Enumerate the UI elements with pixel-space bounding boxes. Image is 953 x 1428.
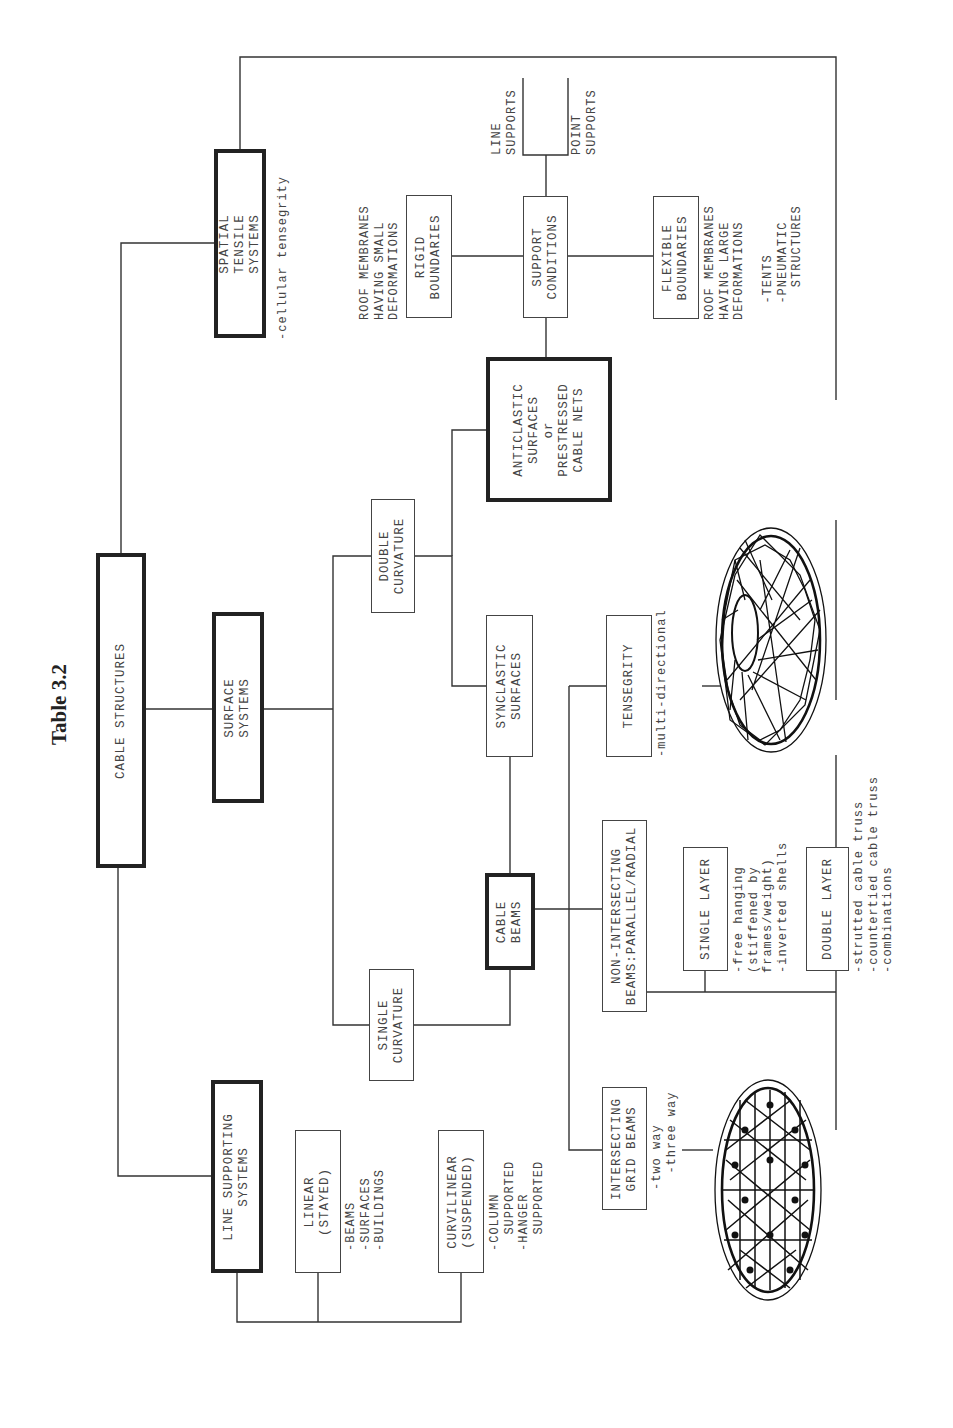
node-label: NON-INTERSECTING BEAMS:PARALLEL/RADIAL [610,827,640,1006]
node-label: INTERSECTING GRID BEAMS [610,1097,640,1199]
note-roof-membranes-small: ROOF MEMBRANES HAVING SMALL DEFORMATIONS [358,205,402,320]
node-cable-structures: CABLE STRUCTURES [96,553,146,868]
node-label: TENSEGRITY [622,643,637,728]
node-anticlastic-surfaces: ANTICLASTIC SURFACES or PRESTRESSED CABL… [486,357,612,502]
node-synclastic-surfaces: SYNCLASTIC SURFACES [486,615,533,757]
node-label: LINEAR (STAYED) [303,1167,333,1235]
node-label: ANTICLASTIC SURFACES or PRESTRESSED CABL… [512,383,587,477]
grid-net-icon [715,1080,821,1300]
node-label: SINGLE CURVATURE [377,987,407,1064]
note-curvilinear-examples: -COLUMN SUPPORTED -HANGER SUPPORTED [488,1161,546,1251]
note-linear-examples: -BEAMS -SURFACES -BUILDINGS [344,1169,388,1251]
node-label: CURVILINEAR (SUSPENDED) [446,1155,476,1249]
node-label: CABLE BEAMS [495,900,525,943]
tensegrity-dome-icon [716,528,826,752]
note-point-supports: POINT SUPPORTS [570,89,599,155]
note-line-supports: LINE SUPPORTS [490,89,519,155]
node-label: DOUBLE CURVATURE [378,518,408,595]
node-surface-systems: SURFACE SYSTEMS [212,612,264,803]
node-cable-beams: CABLE BEAMS [485,873,535,970]
node-label: LINE SUPPORTING SYSTEMS [222,1113,252,1241]
node-curvilinear-suspended: CURVILINEAR (SUSPENDED) [438,1130,484,1273]
node-rigid-boundaries: RIGID BOUNDARIES [406,195,452,318]
node-tensegrity: TENSEGRITY [606,615,652,757]
node-label: SPATIAL TENSILE SYSTEMS [218,214,263,274]
note-double-layer-examples: -strutted cable truss -countertied cable… [852,776,896,973]
note-grid-directions: -two way -three way [650,1092,679,1190]
node-label: SURFACE SYSTEMS [223,678,253,738]
node-linear-stayed: LINEAR (STAYED) [295,1130,341,1273]
node-support-conditions: SUPPORT CONDITIONS [523,196,568,318]
note-cellular-tensegrity: -cellular tensegrity [276,176,291,340]
node-single-layer: SINGLE LAYER [683,847,728,971]
node-label: RIGID BOUNDARIES [414,214,444,299]
node-intersecting-grid-beams: INTERSECTING GRID BEAMS [602,1087,647,1210]
node-label: CABLE STRUCTURES [114,642,129,778]
node-double-layer: DOUBLE LAYER [806,847,849,971]
note-single-layer-examples: -free hanging (stiffened by frames/weigh… [732,842,790,973]
node-flexible-boundaries: FLEXIBLE BOUNDARIES [653,196,699,319]
diagram-canvas: Table 3.2 CABLE STRUCTURES SURFACE SYSTE… [0,0,953,1428]
node-label: SUPPORT CONDITIONS [531,214,561,299]
node-non-intersecting-beams: NON-INTERSECTING BEAMS:PARALLEL/RADIAL [602,820,647,1012]
node-label: DOUBLE LAYER [820,858,835,960]
node-label: FLEXIBLE BOUNDARIES [661,215,691,300]
table-title: Table 3.2 [47,664,72,745]
node-line-supporting-systems: LINE SUPPORTING SYSTEMS [211,1080,263,1273]
node-label: SYNCLASTIC SURFACES [495,643,525,728]
note-roof-membranes-large: ROOF MEMBRANES HAVING LARGE DEFORMATIONS… [703,205,805,320]
note-multi-directional: -multi-directional [655,609,670,757]
node-label: SINGLE LAYER [698,858,713,960]
node-single-curvature: SINGLE CURVATURE [369,969,414,1081]
node-double-curvature: DOUBLE CURVATURE [371,499,415,613]
node-spatial-tensile-systems: SPATIAL TENSILE SYSTEMS [214,149,266,338]
